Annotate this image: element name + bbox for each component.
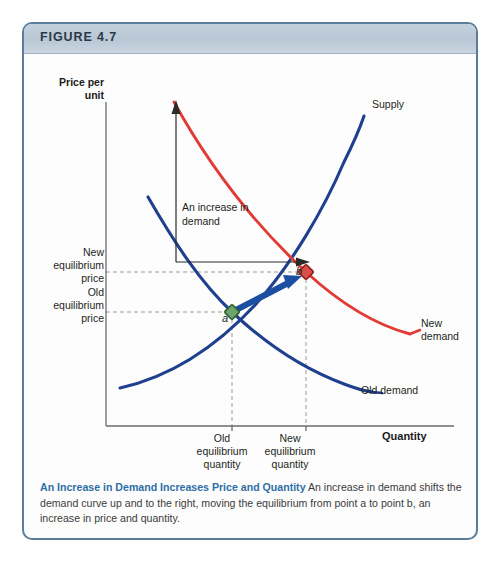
increase-in-demand-arrow (176, 110, 300, 262)
figure-panel: FIGURE 4.7 (22, 22, 478, 540)
x-axis-title: Quantity (382, 430, 427, 443)
figure-caption: An Increase in Demand Increases Price an… (40, 480, 462, 527)
supply-curve (120, 116, 364, 388)
figure-caption-lead: An Increase in Demand Increases Price an… (40, 481, 306, 493)
y-tick-label-old-equilibrium-price: Old equilibrium price (26, 286, 104, 325)
x-tick-label-new-equilibrium-quantity: New equilibrium quantity (252, 432, 328, 471)
increase-in-demand-annotation-label: An increase in demand (182, 200, 274, 228)
point-b-label: b (296, 265, 302, 278)
new-demand-curve-label: New demand (421, 317, 478, 343)
figure-header: FIGURE 4.7 (24, 24, 476, 54)
equilibrium-shift-arrow (236, 275, 302, 310)
x-tick-label-old-equilibrium-quantity: Old equilibrium quantity (184, 432, 260, 471)
old-demand-curve-label: Old demand (361, 384, 418, 397)
chart-plot-area: Price per unit New equilibrium price Old… (24, 54, 478, 474)
y-axis-title: Price per unit (36, 76, 104, 102)
y-tick-label-new-equilibrium-price: New equilibrium price (26, 246, 104, 285)
figure-number-label: FIGURE 4.7 (40, 31, 117, 44)
point-a-label: a (222, 312, 228, 325)
x-axis-ticks (232, 426, 306, 431)
leader-new-demand (410, 330, 420, 334)
supply-curve-label: Supply (372, 98, 404, 111)
